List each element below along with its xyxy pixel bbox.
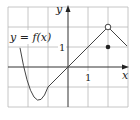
tick-y-label: 1 [59, 42, 65, 53]
parabola-piece [20, 48, 48, 100]
falling-line-piece [110, 29, 127, 46]
open-point [105, 24, 111, 30]
function-label: y = f(x) [9, 31, 51, 44]
y-axis-arrow-icon [66, 5, 71, 12]
rising-line-piece [48, 29, 106, 87]
tick-x-label: 1 [85, 72, 91, 83]
y-axis-label: y [55, 3, 63, 16]
filled-point [106, 45, 111, 50]
x-axis-label: x [122, 69, 129, 82]
function-graph: y = f(x) y x 1 1 [0, 0, 140, 120]
